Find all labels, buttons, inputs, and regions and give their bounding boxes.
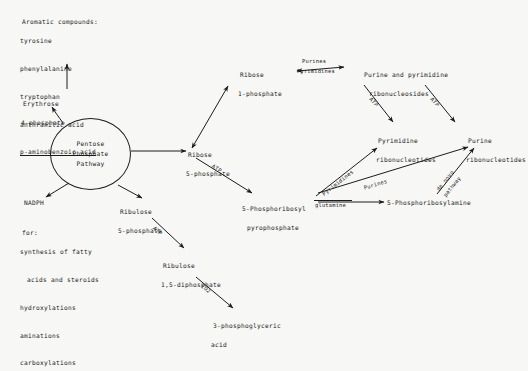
- edge-label-pyrimidines-diagonal: Pyrimidines: [321, 169, 356, 198]
- ribose1p-line1: Ribose: [240, 71, 264, 78]
- pyrimidine-nucleotides-line2: ribonucleotides: [362, 155, 436, 164]
- ribose1p-line2: 1-phosphate: [224, 89, 282, 98]
- prpp-line1: 5-Phosphoribosyl: [242, 205, 306, 212]
- node-3-phosphoglyceric-acid: 3-phosphoglyceric acid: [197, 312, 281, 368]
- pentose-line1: Pentose: [51, 139, 130, 149]
- for-item-carboxylations: carboxylations: [6, 358, 99, 367]
- rudp-line1: Ribulose: [163, 262, 195, 269]
- pentose-line3: Pathway: [51, 159, 130, 169]
- pentose-circle-text: Pentose Phosphate Pathway: [51, 139, 130, 169]
- arrow-ribose5p-ribose1p: [192, 86, 228, 148]
- purine-nucleotides-line1: Purine: [468, 137, 492, 144]
- erythrose-line2: 4-phosphate: [7, 118, 65, 127]
- prpp-line2: pyrophosphate: [226, 223, 306, 232]
- node-purine-pyrimidine-ribonucleosides: Purine and pyrimidine ribonucleosides: [348, 61, 448, 117]
- aromatic-header: Aromatic compounds:: [22, 18, 98, 25]
- for-item-synthesis-fatty: synthesis of fatty: [6, 247, 99, 256]
- node-pyrimidine-ribonucleotides: Pyrimidine ribonucleotides: [362, 127, 436, 183]
- edge-label-purines-top: Purines: [302, 58, 326, 66]
- erythrose-line1: Erythrose: [23, 100, 59, 107]
- node-nadph: NADPH: [24, 198, 44, 207]
- edge-label-glutamine: glutamine: [315, 202, 346, 210]
- for-header: for:: [22, 229, 38, 236]
- node-ribulose-1-5-diphosphate: Ribulose 1,5-diphosphate: [147, 252, 221, 308]
- pga-line2: acid: [197, 340, 281, 349]
- arrow-pentose-to-ribulose5p: [118, 185, 142, 198]
- ribulose5p-line1: Ribulose: [120, 208, 152, 215]
- node-nadph-uses: for: synthesis of fatty acids and steroi…: [6, 219, 99, 371]
- node-pentose-phosphate-pathway: Pentose Phosphate Pathway: [50, 118, 131, 190]
- pga-line1: 3-phosphoglyceric: [213, 322, 281, 329]
- pentose-line2: Phosphate: [51, 149, 130, 159]
- node-purine-ribonucleotides: Purine ribonucleotides: [452, 127, 526, 183]
- arrow-pentose-to-nadph: [46, 183, 69, 197]
- node-5-phosphoribosylamine: 5-Phosphoribosylamine: [387, 198, 471, 207]
- glutamine-underline: [314, 200, 352, 201]
- aromatic-item-phenylalanine: phenylalanine: [6, 64, 98, 73]
- ribose5p-line1: Ribose: [188, 151, 212, 158]
- node-prpp: 5-Phosphoribosyl pyrophosphate: [226, 195, 306, 251]
- node-ribose-1-phosphate: Ribose 1-phosphate: [224, 61, 282, 117]
- for-item-aminations: aminations: [6, 331, 99, 340]
- edge-label-pyrimidines-top: Pyrimidines: [297, 68, 335, 76]
- for-item-hydroxylations: hydroxylations: [6, 303, 99, 312]
- for-item-acids-steroids: acids and steroids: [6, 275, 99, 284]
- nucleosides-line1: Purine and pyrimidine: [364, 71, 448, 78]
- pyrimidine-nucleotides-line1: Pyrimidine: [378, 137, 418, 144]
- purine-nucleotides-line2: ribonucleotides: [452, 155, 526, 164]
- aromatic-item-tyrosine: tyrosine: [6, 36, 98, 45]
